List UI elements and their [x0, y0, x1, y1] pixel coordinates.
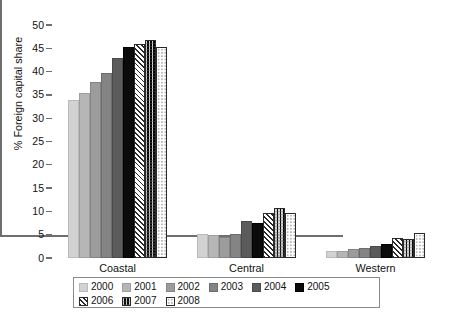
legend-label-2000: 2000: [91, 282, 113, 292]
bar-coastal-2001: [79, 93, 90, 258]
bar-western-2003: [359, 248, 370, 258]
bar-western-2007: [403, 239, 414, 258]
y-axis-tick: [46, 141, 52, 142]
legend-item-2003[interactable]: 2003: [209, 282, 243, 292]
bar-coastal-2008: [156, 47, 167, 258]
legend-item-2000[interactable]: 2000: [79, 282, 113, 292]
bar-coastal-2000: [68, 100, 79, 258]
legend-item-2006[interactable]: 2006: [79, 296, 113, 306]
y-axis-tick-label: 10: [4, 206, 44, 217]
bar-central-2005: [252, 223, 263, 258]
y-axis-tick: [46, 234, 52, 235]
legend-row: 200020012002200320042005: [79, 281, 375, 293]
legend-swatch-solid-darker-gray-icon: [252, 283, 261, 292]
y-axis-tick-label: 30: [4, 113, 44, 124]
bar-group-western: [326, 25, 425, 258]
bar-coastal-2002: [90, 82, 101, 258]
y-axis-tick: [46, 164, 52, 165]
legend-label-2006: 2006: [91, 296, 113, 306]
legend-label-2007: 2007: [134, 296, 156, 306]
legend-label-2003: 2003: [221, 282, 243, 292]
y-axis-tick: [46, 257, 52, 258]
legend-item-2008[interactable]: 2008: [166, 296, 200, 306]
category-label-western: Western: [316, 262, 436, 274]
y-axis-tick-label: 40: [4, 66, 44, 77]
bar-central-2003: [230, 234, 241, 258]
y-axis-tick-label: 50: [4, 20, 44, 31]
bar-central-2004: [241, 221, 252, 258]
legend-label-2002: 2002: [178, 282, 200, 292]
legend-label-2004: 2004: [264, 282, 286, 292]
bar-group-coastal: [68, 25, 167, 258]
y-axis-tick: [46, 118, 52, 119]
legend-label-2008: 2008: [178, 296, 200, 306]
figure-caption: [14, 317, 344, 326]
y-axis-tick-label: 25: [4, 136, 44, 147]
y-axis-tick: [46, 187, 52, 188]
legend-swatch-solid-black-icon: [295, 283, 304, 292]
y-axis-tick-label: 20: [4, 159, 44, 170]
y-axis-tick: [46, 94, 52, 95]
legend-swatch-solid-mid-gray-icon: [166, 283, 175, 292]
y-axis-tick-label: 35: [4, 89, 44, 100]
bar-western-2002: [348, 249, 359, 258]
bar-western-2000: [326, 251, 337, 258]
y-axis-tick: [46, 71, 52, 72]
legend-label-2005: 2005: [307, 282, 329, 292]
bar-western-2005: [381, 244, 392, 258]
bar-group-central: [197, 25, 296, 258]
bar-western-2006: [392, 238, 403, 259]
y-axis-title: % Foreign capital share: [13, 4, 24, 184]
y-axis-tick-label: 0: [4, 253, 44, 264]
y-axis-tick: [46, 24, 52, 25]
legend-item-2005[interactable]: 2005: [295, 282, 329, 292]
bar-central-2006: [263, 213, 274, 258]
bar-coastal-2007: [145, 40, 156, 258]
legend-label-2001: 2001: [134, 282, 156, 292]
legend-swatch-solid-dark-gray-icon: [209, 283, 218, 292]
legend-swatch-diagonal-hatch-icon: [79, 297, 88, 306]
figure-bar-chart: 05101520253035404550 % Foreign capital s…: [0, 0, 454, 329]
category-label-coastal: Coastal: [58, 262, 178, 274]
y-axis-tick-label: 15: [4, 183, 44, 194]
legend-swatch-checkerboard-icon: [122, 297, 131, 306]
bar-coastal-2004: [112, 58, 123, 258]
bar-central-2000: [197, 234, 208, 258]
legend-swatch-solid-light-gray-icon: [79, 283, 88, 292]
legend: 200020012002200320042005200620072008: [73, 277, 380, 308]
bar-coastal-2005: [123, 47, 134, 258]
y-axis-tick: [46, 211, 52, 212]
legend-item-2007[interactable]: 2007: [122, 296, 156, 306]
legend-item-2004[interactable]: 2004: [252, 282, 286, 292]
bar-coastal-2003: [101, 73, 112, 258]
legend-swatch-solid-gray-icon: [122, 283, 131, 292]
bar-western-2001: [337, 251, 348, 258]
bar-western-2008: [414, 233, 425, 258]
bar-central-2007: [274, 208, 285, 258]
legend-item-2002[interactable]: 2002: [166, 282, 200, 292]
y-axis-tick-label: 45: [4, 43, 44, 54]
bar-central-2008: [285, 213, 296, 258]
legend-row: 200620072008: [79, 295, 375, 307]
bar-coastal-2006: [134, 44, 145, 258]
y-axis-tick-label: 5: [4, 229, 44, 240]
legend-swatch-dotted-icon: [166, 297, 175, 306]
bar-central-2002: [219, 237, 230, 258]
y-axis-tick: [46, 48, 52, 49]
category-label-central: Central: [187, 262, 307, 274]
bar-central-2001: [208, 235, 219, 258]
legend-item-2001[interactable]: 2001: [122, 282, 156, 292]
bar-western-2004: [370, 246, 381, 258]
